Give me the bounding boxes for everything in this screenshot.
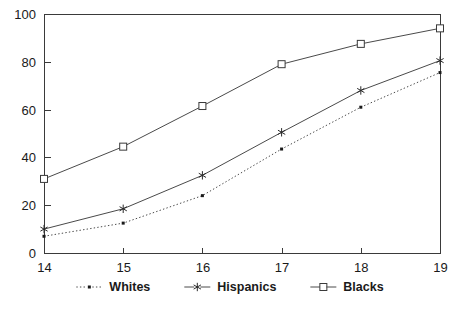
data-point-blacks [199,103,206,110]
data-point-hispanics [40,225,47,233]
data-point-whites [359,106,362,109]
data-point-hispanics [199,171,206,179]
x-tick-label: 18 [354,260,368,275]
data-point-blacks [278,61,285,68]
legend-label-whites: Whites [109,280,150,294]
y-tick-label: 0 [29,246,36,261]
legend-dot-marker [88,286,91,289]
y-tick-label: 80 [22,55,36,70]
y-tick-label: 60 [22,103,36,118]
data-point-whites [43,235,46,238]
x-tick-label: 15 [116,260,130,275]
data-point-blacks [41,175,48,182]
data-point-hispanics [120,205,127,213]
data-point-whites [280,148,283,151]
legend-square-marker [320,284,327,291]
data-point-hispanics [278,128,285,136]
x-tick-label: 17 [275,260,289,275]
legend-label-hispanics: Hispanics [217,280,276,294]
data-point-whites [201,194,204,197]
series-line-blacks [44,28,440,179]
data-point-blacks [357,40,364,47]
data-point-whites [439,71,442,74]
x-tick-label: 14 [37,260,51,275]
legend-asterisk-marker [194,283,201,291]
chart-canvas: 020406080100141516171819WhitesHispanicsB… [0,0,460,315]
data-point-blacks [437,25,444,32]
data-point-hispanics [436,56,443,64]
y-tick-label: 40 [22,150,36,165]
legend-label-blacks: Blacks [343,280,383,294]
data-point-blacks [120,143,127,150]
y-tick-label: 20 [22,198,36,213]
x-tick-label: 16 [196,260,210,275]
x-tick-label: 19 [433,260,447,275]
data-point-whites [122,222,125,225]
line-chart: 020406080100141516171819WhitesHispanicsB… [0,0,460,315]
data-point-hispanics [357,86,364,94]
y-tick-label: 100 [14,7,36,22]
plot-frame [45,15,441,254]
series-line-hispanics [44,61,440,230]
